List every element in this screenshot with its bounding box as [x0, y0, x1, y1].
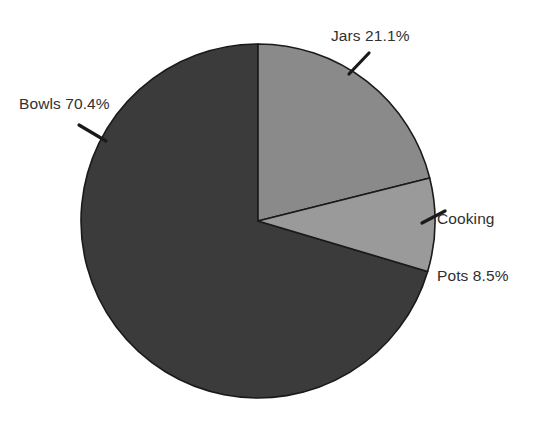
pie-label-cooking-pots: Cooking Pots 8.5% [437, 171, 509, 323]
pie-label-cooking-pots-line2: Pots 8.5% [437, 266, 509, 285]
pie-chart-figure: Jars 21.1% Bowls 70.4% Cooking Pots 8.5% [0, 0, 535, 426]
pie-label-bowls: Bowls 70.4% [19, 94, 110, 113]
pie-label-jars: Jars 21.1% [331, 26, 410, 45]
pie-label-cooking-pots-line1: Cooking [437, 209, 509, 228]
